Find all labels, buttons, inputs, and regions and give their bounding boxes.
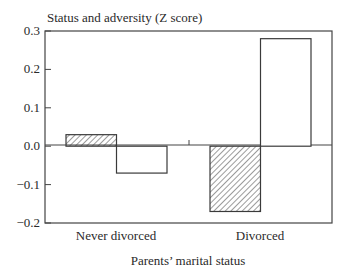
bar-never-divorced-hatched — [66, 135, 117, 147]
x-category-divorced: Divorced — [236, 228, 285, 243]
bar-divorced-hatched — [210, 146, 261, 211]
x-axis-label: Parents’ marital status — [131, 253, 246, 268]
bar-never-divorced-open — [117, 146, 168, 173]
y-tick-label: 0.1 — [24, 100, 40, 115]
y-axis: 0.30.20.10.0−0.1−0.2 — [16, 23, 51, 230]
y-tick-label: 0.3 — [24, 23, 40, 38]
y-tick-label: 0.2 — [24, 61, 40, 76]
y-tick-label: −0.1 — [16, 177, 40, 192]
y-tick-label: −0.2 — [16, 215, 40, 230]
x-category-never-divorced: Never divorced — [76, 228, 157, 243]
bars — [66, 39, 311, 212]
bar-chart: Status and adversity (Z score) 0.30.20.1… — [0, 0, 349, 273]
y-axis-label: Status and adversity (Z score) — [47, 10, 202, 25]
y-tick-label: 0.0 — [24, 138, 40, 153]
bar-divorced-open — [261, 39, 312, 147]
